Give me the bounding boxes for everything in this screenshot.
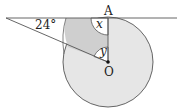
label-angle-x: x [96, 17, 103, 31]
center-point [106, 60, 110, 64]
label-angle-y: y [99, 44, 107, 58]
label-o: O [104, 65, 114, 79]
diagram-canvas: A O 24° x y [0, 0, 183, 112]
geometry-diagram: A O 24° x y [0, 0, 183, 112]
label-angle-24: 24° [35, 18, 56, 32]
label-a: A [103, 4, 113, 18]
